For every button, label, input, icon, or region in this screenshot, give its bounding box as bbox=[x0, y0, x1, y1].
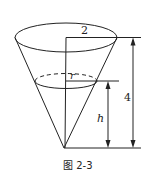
cone-right-side bbox=[64, 38, 117, 149]
water-height-label: h bbox=[97, 112, 104, 125]
top-radius-label: 2 bbox=[81, 24, 88, 37]
total-height-label: 4 bbox=[124, 91, 131, 104]
cone-diagram: 2 r h 4 图 2-3 bbox=[0, 0, 151, 176]
h-arrow-up-icon bbox=[106, 81, 111, 89]
figure-caption: 图 2-3 bbox=[63, 160, 93, 171]
water-radius-label: r bbox=[70, 70, 76, 81]
h-arrow-down-icon bbox=[106, 140, 111, 148]
cone-axis bbox=[65, 38, 66, 149]
cone-left-side bbox=[15, 38, 64, 149]
height-arrow-up-icon bbox=[131, 38, 136, 46]
height-arrow-down-icon bbox=[131, 140, 136, 148]
